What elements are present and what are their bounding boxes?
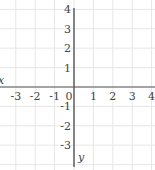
x-tick-label: 1: [90, 90, 97, 103]
x-axis-label: x: [0, 74, 5, 87]
coordinate-plane: -3-2-101234 4321-1-2-3 x y: [0, 0, 155, 170]
y-tick-label: 4: [64, 3, 71, 16]
x-tick-label: -2: [30, 90, 41, 103]
y-tick-labels: 4321-1-2-3: [60, 3, 71, 152]
x-tick-label: -1: [49, 90, 60, 103]
x-tick-label: 4: [148, 90, 155, 103]
y-tick-label: 1: [64, 62, 71, 75]
grid-lines: [0, 0, 155, 170]
y-tick-label: 3: [64, 23, 71, 36]
x-tick-labels: -3-2-101234: [10, 90, 155, 103]
y-axis-label: y: [77, 151, 85, 164]
x-tick-label: -3: [10, 90, 21, 103]
y-tick-label: -2: [60, 120, 71, 133]
y-tick-label: 2: [64, 42, 71, 55]
x-tick-label: 2: [109, 90, 116, 103]
y-tick-label: -3: [60, 139, 71, 152]
y-tick-label: -1: [60, 100, 71, 113]
x-tick-label: 3: [129, 90, 136, 103]
